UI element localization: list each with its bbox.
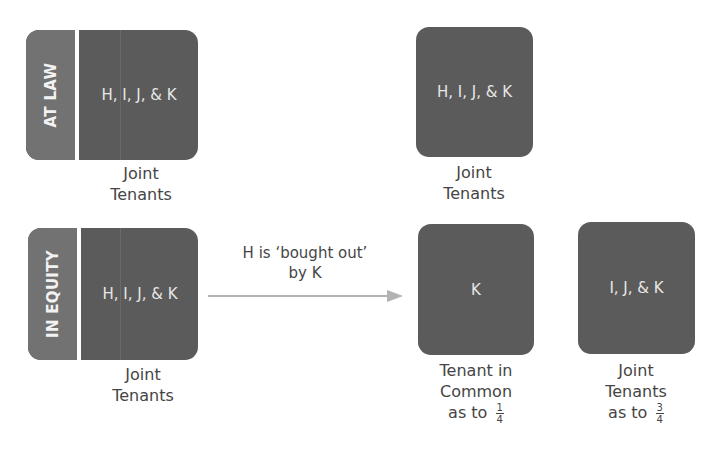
- at-law-after-parties: H, I, J, & K: [437, 83, 512, 101]
- strip-divider: [77, 228, 81, 360]
- in-equity-before-parties: H, I, J, & K: [102, 285, 177, 303]
- at-law-before-parties: H, I, J, & K: [101, 86, 176, 104]
- transition-line: by K: [225, 263, 385, 283]
- share-numerator: 1: [496, 402, 504, 414]
- share-fraction: 3 4: [656, 402, 664, 425]
- in-equity-label-strip: IN EQUITY: [28, 228, 77, 360]
- at-law-after-caption: Joint Tenants: [419, 162, 529, 204]
- share-line: as to 3 4: [581, 402, 691, 425]
- caption-line: Joint: [419, 162, 529, 183]
- caption-line: Joint: [88, 364, 198, 385]
- in-equity-after-ijk-caption: Joint Tenants as to 3 4: [581, 360, 691, 425]
- share-fraction: 1 4: [496, 402, 504, 425]
- share-prefix: as to: [608, 403, 647, 422]
- at-law-after-box: H, I, J, & K: [416, 27, 533, 157]
- share-numerator: 3: [656, 402, 664, 414]
- at-law-label-strip: AT LAW: [26, 30, 75, 160]
- caption-line: Joint: [581, 360, 691, 381]
- in-equity-before-box: IN EQUITY H, I, J, & K: [28, 228, 198, 360]
- share-prefix: as to: [448, 403, 487, 422]
- share-line: as to 1 4: [421, 402, 531, 425]
- share-denominator: 4: [656, 414, 664, 425]
- in-equity-after-k-caption: Tenant in Common as to 1 4: [421, 360, 531, 425]
- at-law-before-caption: Joint Tenants: [86, 163, 196, 205]
- caption-line: Tenants: [581, 381, 691, 402]
- caption-line: Tenants: [88, 385, 198, 406]
- in-equity-label: IN EQUITY: [44, 250, 62, 338]
- caption-line: Common: [421, 381, 531, 402]
- caption-line: Tenants: [86, 184, 196, 205]
- at-law-label: AT LAW: [42, 63, 60, 128]
- caption-line: Tenant in: [421, 360, 531, 381]
- transition-label: H is ‘bought out’ by K: [225, 243, 385, 283]
- caption-line: Tenants: [419, 183, 529, 204]
- in-equity-after-k-parties: K: [471, 281, 481, 299]
- transition-arrow: [205, 286, 405, 306]
- in-equity-before-caption: Joint Tenants: [88, 364, 198, 406]
- in-equity-after-k-box: K: [418, 224, 534, 355]
- in-equity-after-ijk-parties: I, J, & K: [609, 279, 663, 297]
- transition-line: H is ‘bought out’: [225, 243, 385, 263]
- share-denominator: 4: [496, 414, 504, 425]
- at-law-before-box: AT LAW H, I, J, & K: [26, 30, 198, 160]
- caption-line: Joint: [86, 163, 196, 184]
- in-equity-after-ijk-box: I, J, & K: [578, 222, 695, 354]
- strip-divider: [75, 30, 79, 160]
- arrow-head-icon: [387, 290, 403, 302]
